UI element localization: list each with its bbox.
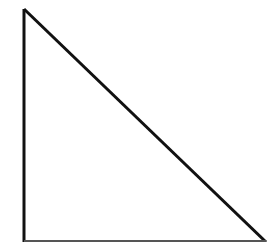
diagram-canvas [0,0,272,242]
triangle-figure [0,0,272,242]
triangle-hypotenuse [24,9,266,242]
